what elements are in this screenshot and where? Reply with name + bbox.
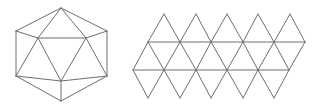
icosahedron-edge: [38, 8, 61, 38]
icosahedron-edge: [61, 8, 86, 38]
net-edge: [290, 14, 305, 42]
icosahedron-edge: [86, 31, 107, 38]
icosahedron-diagram: [0, 0, 319, 109]
icosahedron-3d-view: [16, 8, 107, 101]
net-edge: [274, 70, 289, 98]
net-edge: [211, 14, 227, 42]
net-edge: [148, 14, 164, 42]
net-edge: [133, 70, 148, 98]
net-edge: [133, 42, 148, 70]
net-edge: [227, 70, 243, 98]
icosahedron-edge: [16, 38, 38, 76]
net-edge: [258, 14, 274, 42]
net-edge: [180, 42, 196, 70]
net-edge: [289, 42, 305, 70]
icosahedron-edge: [38, 38, 61, 81]
net-edge: [180, 14, 196, 42]
net-edge: [196, 42, 211, 70]
net-edge: [164, 70, 180, 98]
net-edge: [164, 42, 180, 70]
icosahedron-edge: [61, 38, 86, 81]
net-edge: [211, 42, 227, 70]
net-edge: [274, 42, 289, 70]
net-edge: [196, 14, 211, 42]
icosahedron-edge: [86, 38, 107, 76]
icosahedron-edge: [16, 8, 61, 31]
net-edge: [164, 14, 180, 42]
net-edge: [227, 42, 243, 70]
net-edge: [148, 42, 164, 70]
net-edge: [258, 42, 274, 70]
icosahedron-edge: [16, 31, 38, 38]
icosahedron-net: [133, 14, 305, 98]
net-edge: [243, 14, 258, 42]
net-edge: [148, 70, 164, 98]
net-edge: [243, 70, 258, 98]
net-edge: [211, 70, 227, 98]
net-edge: [180, 70, 196, 98]
net-edge: [274, 14, 290, 42]
icosahedron-edge: [61, 8, 107, 31]
net-edge: [258, 70, 274, 98]
net-edge: [243, 42, 258, 70]
net-edge: [227, 14, 243, 42]
net-edge: [196, 70, 211, 98]
